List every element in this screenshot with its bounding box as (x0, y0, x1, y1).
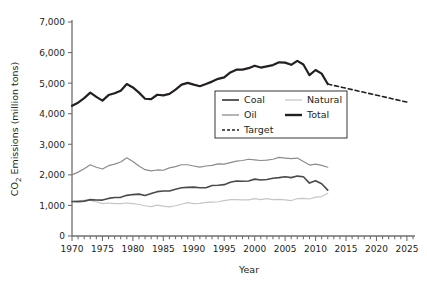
legend-label-oil: Oil (244, 109, 257, 120)
x-tick-label: 2005 (274, 244, 297, 254)
series-line-oil (72, 157, 328, 174)
y-axis-tick-labels: 01,0002,0003,0004,0005,0006,0007,000 (39, 17, 65, 241)
x-tick-label: 1980 (121, 244, 144, 254)
y-tick-label: 5,000 (39, 79, 65, 89)
x-tick-label: 1975 (91, 244, 114, 254)
x-tick-label: 2020 (365, 244, 388, 254)
x-tick-label: 2015 (335, 244, 358, 254)
x-axis-tick-labels: 1970197519801985199019952000200520102015… (61, 244, 419, 254)
x-tick-label: 2000 (243, 244, 266, 254)
y-axis-title: CO2 Emissions (million tons) (9, 62, 23, 196)
y-tick-label: 7,000 (39, 17, 65, 27)
x-tick-label: 1990 (182, 244, 205, 254)
y-axis-title-text: CO2 Emissions (million tons) (9, 62, 23, 196)
x-tick-label: 2025 (395, 244, 418, 254)
y-tick-label: 0 (59, 231, 65, 241)
co2-emissions-line-chart: 01,0002,0003,0004,0005,0006,0007,000 197… (0, 0, 427, 282)
legend-label-natural: Natural (307, 94, 342, 105)
y-tick-label: 2,000 (39, 170, 65, 180)
x-axis-title: Year (238, 264, 259, 275)
legend-label-target: Target (243, 124, 274, 135)
y-tick-label: 4,000 (39, 109, 65, 119)
x-tick-label: 1970 (61, 244, 84, 254)
y-tick-label: 1,000 (39, 201, 65, 211)
y-tick-label: 6,000 (39, 48, 65, 58)
x-tick-label: 1995 (213, 244, 236, 254)
x-tick-label: 1985 (152, 244, 175, 254)
chart-container: 01,0002,0003,0004,0005,0006,0007,000 197… (0, 0, 427, 282)
legend-label-total: Total (306, 109, 329, 120)
chart-legend: CoalNaturalOilTotalTarget (215, 91, 347, 138)
y-tick-label: 3,000 (39, 140, 65, 150)
x-tick-label: 2010 (304, 244, 327, 254)
series-line-natural (72, 193, 328, 207)
legend-label-coal: Coal (244, 94, 265, 105)
series-line-coal (72, 176, 328, 202)
